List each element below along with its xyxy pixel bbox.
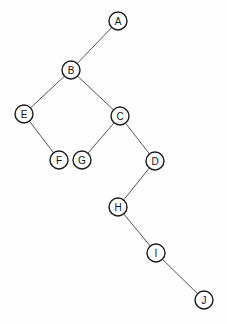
graph-edge-b-e [31, 76, 65, 108]
node-label-e: E [21, 109, 28, 120]
node-label-c: C [116, 111, 123, 122]
node-label-j: J [202, 295, 207, 306]
graph-edge-h-i [124, 214, 151, 246]
graph-node-j[interactable]: J [195, 291, 213, 309]
node-label-g: G [78, 155, 86, 166]
graph-node-h[interactable]: H [109, 198, 127, 216]
graph-node-b[interactable]: B [62, 61, 80, 79]
graph-edge-i-j [162, 259, 197, 293]
graph-node-f[interactable]: F [50, 151, 68, 169]
node-label-f: F [56, 155, 62, 166]
graph-edge-d-h [124, 168, 150, 200]
graph-node-d[interactable]: D [146, 152, 164, 170]
node-label-a: A [115, 16, 122, 27]
diagram-canvas: ABECFGDHIJ [0, 0, 227, 324]
node-label-h: H [114, 202, 121, 213]
node-label-b: B [68, 65, 75, 76]
graph-svg: ABECFGDHIJ [0, 0, 227, 324]
graph-edge-a-b [77, 27, 112, 63]
node-layer: ABECFGDHIJ [15, 12, 213, 309]
graph-node-e[interactable]: E [15, 105, 33, 123]
node-label-i: I [155, 248, 158, 259]
graph-node-g[interactable]: G [73, 151, 91, 169]
graph-edge-e-f [29, 121, 53, 153]
graph-node-i[interactable]: I [147, 244, 165, 262]
graph-edge-b-c [78, 76, 114, 110]
graph-node-c[interactable]: C [111, 107, 129, 125]
graph-edge-c-d [126, 123, 150, 154]
graph-node-a[interactable]: A [109, 12, 127, 30]
graph-edge-c-g [88, 123, 114, 153]
node-label-d: D [151, 156, 158, 167]
